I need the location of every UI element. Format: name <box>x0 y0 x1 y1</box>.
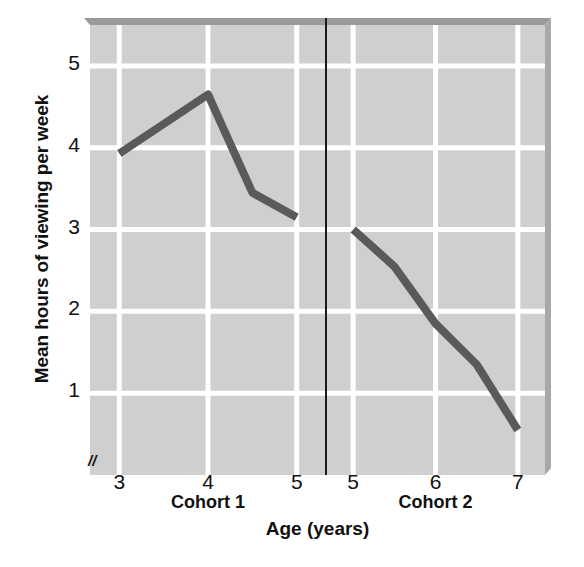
panel-right-edge <box>545 18 551 475</box>
y-tick-label: 3 <box>46 215 80 239</box>
x-tick-label: 4 <box>195 470 221 494</box>
x-axis-title: Age (years) <box>90 518 545 540</box>
y-tick-label: 2 <box>46 296 80 320</box>
panel-top-edge <box>84 18 551 25</box>
cohort-1-label: Cohort 1 <box>90 492 326 513</box>
x-tick-label: 7 <box>505 470 531 494</box>
x-tick-label: 6 <box>423 470 449 494</box>
plot-background <box>90 25 545 475</box>
x-tick-label: 3 <box>106 470 132 494</box>
y-tick-label: 4 <box>46 133 80 157</box>
axis-break-marker: // <box>88 452 96 469</box>
cohort-2-label: Cohort 2 <box>326 492 545 513</box>
x-tick-label: 5 <box>340 470 366 494</box>
chart-figure: Mean hours of viewing per week Age (year… <box>0 0 584 567</box>
y-tick-label: 5 <box>46 51 80 75</box>
y-tick-label: 1 <box>46 378 80 402</box>
x-tick-label: 5 <box>284 470 310 494</box>
